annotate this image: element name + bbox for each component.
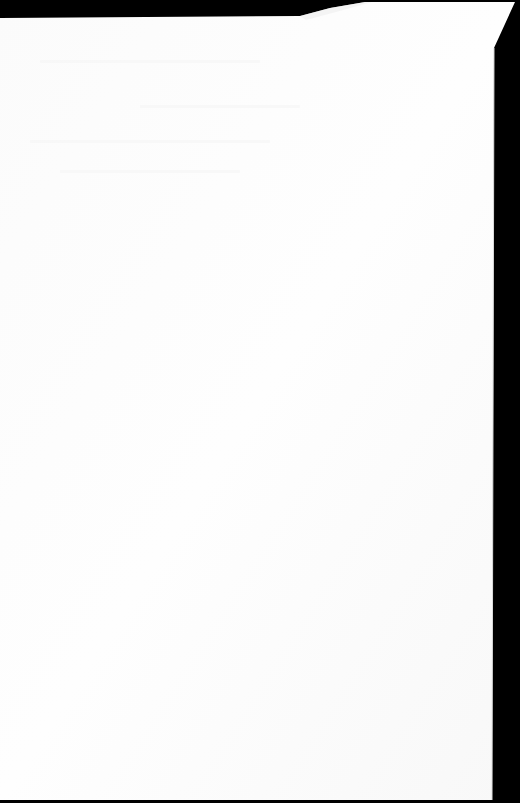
paper-sheet — [0, 0, 520, 803]
paper-surface — [0, 2, 515, 800]
photo-scene — [0, 0, 520, 803]
